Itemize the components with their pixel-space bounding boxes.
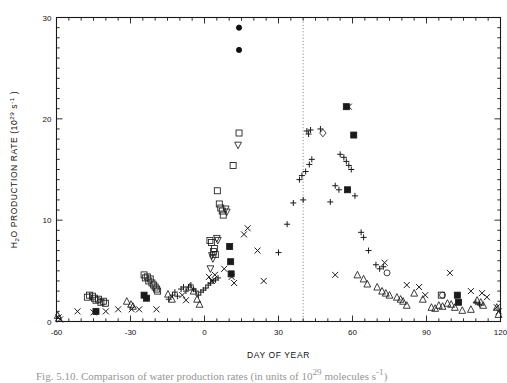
caption-exponent: 29 <box>313 367 322 377</box>
axis-ticks <box>57 18 501 322</box>
series-plus <box>166 126 483 307</box>
data-point <box>216 201 222 207</box>
data-point <box>317 126 323 132</box>
series-open-triangle-down <box>207 142 241 272</box>
data-point <box>411 290 418 297</box>
data-point <box>332 183 338 189</box>
data-point <box>336 187 342 193</box>
series-open-triangle-up <box>54 271 502 321</box>
data-point <box>183 297 189 303</box>
data-point <box>165 291 172 298</box>
data-point <box>366 248 372 254</box>
x-tick-label: 30 <box>274 328 283 337</box>
caption-tail: molecules s <box>322 370 376 382</box>
data-point <box>484 294 490 300</box>
x-axis-title: DAY OF YEAR <box>247 350 310 360</box>
data-point <box>373 262 379 268</box>
data-point <box>115 306 121 312</box>
data-point <box>419 296 426 303</box>
data-point <box>382 260 388 266</box>
data-point <box>245 225 251 231</box>
data-point <box>345 187 351 193</box>
data-point <box>290 200 296 206</box>
svg-text:H2O PRODUCTION RATE (1029 s-1: H2O PRODUCTION RATE (1029 s-1 ) <box>8 91 20 249</box>
data-point <box>74 308 80 314</box>
data-point <box>196 301 203 308</box>
caption-exponent-2: -1 <box>376 367 384 377</box>
data-point <box>230 162 236 168</box>
data-point <box>351 132 357 138</box>
data-point <box>144 295 150 301</box>
data-point <box>454 292 460 298</box>
y-tick-label: 10 <box>43 216 52 225</box>
data-point <box>212 272 218 278</box>
caption-prefix: Fig. 5.10. <box>36 370 78 382</box>
data-point <box>179 292 185 298</box>
data-point <box>241 231 247 237</box>
x-tick-label: -30 <box>125 328 137 337</box>
data-point <box>93 308 99 314</box>
data-points-layer <box>54 25 502 322</box>
axis-tick-labels: -60-3003060901200102030 <box>43 14 507 337</box>
data-point <box>352 193 358 199</box>
y-tick-label: 0 <box>47 318 52 327</box>
data-point <box>332 272 338 278</box>
data-point <box>276 250 282 256</box>
data-point <box>404 282 410 288</box>
data-point <box>228 271 234 277</box>
data-point <box>236 130 242 136</box>
x-tick-label: -60 <box>51 328 63 337</box>
data-point <box>228 259 234 265</box>
y-axis-title: H2O PRODUCTION RATE (1029 s-1 ) <box>8 91 20 249</box>
data-point <box>123 298 130 305</box>
data-point <box>284 221 290 227</box>
y-tick-label: 30 <box>43 14 52 23</box>
caption-end: ) <box>384 370 388 382</box>
data-point <box>416 284 422 290</box>
data-point <box>300 197 306 203</box>
data-point <box>394 294 401 301</box>
data-point <box>403 302 410 309</box>
y-tick-label: 20 <box>43 115 52 124</box>
series-open-circle <box>384 270 446 298</box>
series-cross <box>55 104 501 323</box>
caption-body: Comparison of water production rates (in… <box>81 370 313 382</box>
data-point <box>235 142 242 149</box>
data-point <box>459 307 466 314</box>
axes-frame <box>57 18 501 322</box>
data-point <box>236 47 241 52</box>
data-point <box>206 274 212 280</box>
data-point <box>231 280 237 286</box>
data-point <box>255 248 261 254</box>
data-point <box>354 271 361 278</box>
data-point <box>153 306 159 312</box>
figure-caption: Fig. 5.10. Comparison of water productio… <box>36 366 476 383</box>
data-point <box>136 306 142 312</box>
data-point <box>447 270 453 276</box>
series-filled-square <box>93 104 462 315</box>
x-tick-label: 60 <box>348 328 357 337</box>
x-tick-label: 90 <box>422 328 431 337</box>
data-point <box>374 283 381 290</box>
data-point <box>236 25 241 30</box>
data-point <box>227 244 233 250</box>
data-point <box>343 104 349 110</box>
data-point <box>364 280 371 287</box>
data-point <box>337 151 343 157</box>
data-point <box>360 275 367 282</box>
data-point <box>468 288 474 294</box>
data-point <box>422 292 428 298</box>
data-point <box>261 278 267 284</box>
data-point <box>214 188 220 194</box>
axis-titles: DAY OF YEARH2O PRODUCTION RATE (1029 s-1… <box>8 91 310 360</box>
data-point <box>207 237 213 243</box>
x-tick-label: 120 <box>494 328 507 337</box>
data-point <box>468 306 475 313</box>
data-point <box>456 299 462 305</box>
data-point <box>221 266 227 272</box>
data-point <box>207 266 214 273</box>
series-filled-circle <box>236 25 241 52</box>
